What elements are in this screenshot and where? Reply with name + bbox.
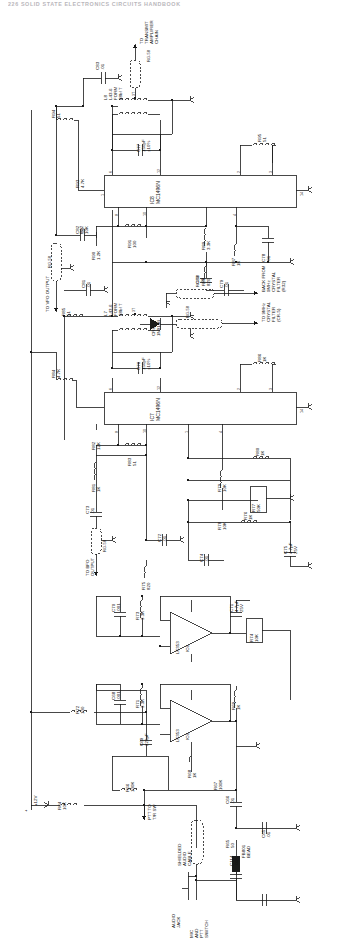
comp-label-l8: L8 L43-6 FORM 88bf T — [104, 87, 124, 100]
pin-ic8-10: 10 — [143, 212, 148, 216]
pin-ic7-8: 8 — [115, 431, 120, 433]
comp-label-c74: C74 .01 — [200, 554, 210, 562]
comp-label-c66: C66 .01 — [226, 796, 236, 804]
pin-ic8-4: 4 — [233, 214, 238, 216]
ic-label-lf353-b: LF353 — [176, 729, 181, 742]
comp-label-c83: C83 .01 — [96, 62, 106, 70]
comp-label-c68: C68 .001 — [112, 691, 122, 700]
pin-ic8-3: 3 — [269, 171, 274, 173]
cable-label-rg58-bfo: RG-58 — [103, 540, 108, 552]
comp-label-r66: R66 100K — [126, 782, 136, 792]
comp-label-r80: R80 1K — [256, 448, 266, 456]
comp-label-r83: R83 51 — [128, 458, 138, 466]
pin-ic8-14: 14 — [300, 192, 305, 196]
comp-label-c69: C69 220µF — [140, 733, 150, 746]
ic-label-lf353-a: LF353 — [176, 641, 181, 654]
comp-label-r82: R82 12K — [92, 442, 102, 450]
comp-label-r68: R68 1K — [188, 770, 198, 778]
net-label-to-filter: TO 9MHz CRYSTAL FILTER (CR-5) — [262, 302, 282, 322]
tap-label-l7: 3T — [132, 308, 137, 312]
comp-label-c79: C79 .01 — [220, 280, 230, 288]
comp-label-r74: R74 10K — [250, 634, 260, 642]
comp-label-c80: C80 .01 — [196, 276, 206, 284]
net-label-ptt-to-tr-sw: PTT TO T/R SW — [148, 804, 158, 820]
net-label-to-transmit-amp: TO TRANSMIT AMPLIFIER CHAIN — [140, 20, 160, 44]
pin-ic8-6: 6 — [109, 171, 114, 173]
pin-ic7-14: 14 — [300, 409, 305, 413]
comp-label-c77: C77 150pF ±10% — [137, 139, 152, 152]
pin-ic8-2: 2 — [237, 171, 242, 173]
comp-label-r93: R93 4.7K — [76, 179, 86, 188]
comp-label-r90: R90 1.2K — [92, 251, 102, 260]
net-label-back-from-filter: BACK FROM 9MHz CRYSTAL FILTER (R32) — [262, 265, 287, 292]
net-label-shielded-audio-cable: SHIELDED AUDIO CABLE — [178, 844, 193, 866]
pin-ic7-10: 10 — [143, 429, 148, 433]
comp-label-c73: C73 .01 — [86, 506, 96, 514]
comp-label-c81: C81 .01 — [82, 280, 92, 288]
pin-ic7-1: 1 — [185, 431, 190, 433]
comp-label-c71: C71 4.7µF 25V — [230, 600, 245, 612]
pin-ic7-4: 4 — [219, 431, 224, 433]
net-label-mic-ptt: MIC AND PTT SWITCH — [190, 920, 210, 938]
pin-ic7-6: 6 — [109, 388, 114, 390]
net-label-12v: +12V — [34, 795, 39, 806]
comp-label-r86: R86 1K — [258, 354, 268, 362]
comp-label-r69: R69 1K — [232, 702, 242, 710]
comp-label-c72: C72 .01 — [158, 534, 168, 542]
comp-label-cr8: CR8 1N914B — [152, 320, 162, 336]
pin-ic8-12: 12 — [157, 169, 162, 173]
pin-ic7-12: 12 — [157, 386, 162, 390]
comp-label-r85: R85 51 — [62, 308, 72, 316]
net-label-to-vfo-output: TO VFO OUTPUT — [46, 276, 51, 312]
pin-ic8-1: 1 — [101, 194, 106, 196]
comp-label-r94: R94 51 — [52, 110, 62, 118]
comp-label-r67: R67 100K — [214, 780, 224, 790]
comp-label-r72: R72 100 — [76, 706, 86, 714]
comp-label-l7: L7 L43-6 FORM 88bf T — [104, 303, 124, 316]
comp-label-r91: R91 100 — [128, 240, 138, 248]
comp-label-r75: R75 820 — [142, 582, 152, 590]
comp-label-r76: R76 1K — [244, 512, 254, 520]
comp-label-r77: R77 50K — [252, 504, 262, 512]
net-label-to-bfo-output: TO BFO OUTPUT — [86, 558, 96, 576]
schematic-drawing — [0, 0, 338, 941]
ic-label-ic8: IC8 MC1496N — [150, 181, 161, 204]
comp-label-c75: C75 4.7µF 25V — [284, 542, 299, 554]
comp-label-r95: R95 51 — [258, 134, 268, 142]
ic-label-ic7: IC7 MC1496N — [150, 398, 161, 421]
comp-label-c70: C70 .001 — [112, 603, 122, 612]
cable-label-rg58-vfo: RG-58 — [48, 256, 53, 268]
net-label-audio-jack: AUDIO JACK — [172, 914, 182, 928]
comp-label-fb801: FB801 BEAD — [242, 845, 252, 858]
comp-label-r65: R65 50 — [226, 840, 236, 848]
comp-label-r78: R78 10K — [218, 522, 228, 530]
tap-label-l8: 3T — [132, 92, 137, 96]
comp-label-r84: R84 4.7K — [52, 369, 62, 378]
comp-label-r89: R89 3.3K — [202, 241, 212, 250]
comp-label-r73: R73 3.3K — [136, 611, 146, 620]
comp-label-c65: C65 .01 — [262, 830, 272, 838]
comp-label-r79: R79 10K — [218, 484, 228, 492]
comp-label-c82: C82 .01 — [76, 226, 86, 234]
comp-label-r87: R87 1K — [232, 258, 242, 266]
pin-ic7-3: 3 — [269, 388, 274, 390]
ic-label-ic6a: IC6 — [186, 645, 191, 652]
cable-label-rg58-to-filter: RG-58 — [186, 306, 191, 318]
ic-label-ic6b: IC6 — [186, 733, 191, 740]
net-label-supply-plus: + — [24, 809, 29, 812]
comp-label-c76: C76 150pF ±10% — [137, 357, 152, 370]
cable-label-rg58-transmit: RG-58 — [147, 50, 152, 62]
pin-ic8-8: 8 — [115, 214, 120, 216]
comp-label-r71: R71 3.3K — [136, 699, 146, 708]
comp-label-c114: C114 .01 — [230, 856, 240, 866]
comp-label-r64: R64 10K — [58, 802, 68, 810]
pin-ic7-2: 2 — [237, 388, 242, 390]
comp-label-c78: C78 .01 — [262, 254, 272, 262]
comp-label-r81: R81 1K — [92, 484, 102, 492]
schematic-sheet: 226 SOLID STATE ELECTRONICS CIRCUITS HAN… — [0, 0, 338, 941]
